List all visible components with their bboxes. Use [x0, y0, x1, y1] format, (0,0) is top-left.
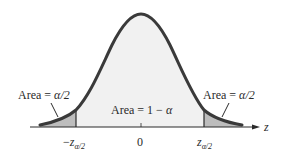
- right-area-label: Area = α/2: [203, 88, 255, 102]
- normal-distribution-diagram: Area = α/2 Area = α/2 Area = 1 − α −zα/2…: [0, 0, 282, 158]
- left-area-label: Area = α/2: [18, 88, 70, 102]
- center-tick-label: 0: [137, 135, 143, 149]
- left-area-pointer: [51, 103, 58, 117]
- axis-variable-label: z: [263, 120, 269, 134]
- left-critical-value-label: −zα/2: [63, 135, 85, 151]
- center-area-label: Area = 1 − α: [111, 103, 173, 117]
- axis-arrow-icon: [252, 125, 260, 130]
- right-critical-value-label: zα/2: [196, 135, 212, 151]
- right-area-pointer: [222, 103, 229, 117]
